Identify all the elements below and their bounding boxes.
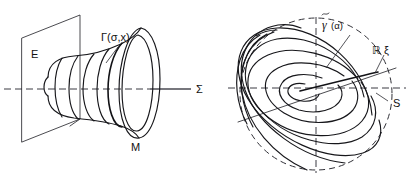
figure-container: E Γ(σ,x) M Σ [0,0,415,181]
spiral-label-group: γ (α) [322,13,343,32]
real-line-label: ℝ ξ [372,44,389,56]
spiral-arc-5 [245,38,375,144]
right-panel-svg: γ (α) ℝ ξ S [0,0,415,181]
spiral-label-arg: (α) [331,20,343,31]
real-line-leader [375,55,384,73]
spiral-arc-6 [238,28,381,156]
spiral-arc-1 [288,83,319,101]
spiral-label-gamma: γ [322,18,327,32]
sphere-label-S: S [393,97,400,109]
spiral-family [237,25,381,170]
sphere-leader-line [376,93,388,101]
tilde-accent-icon [322,13,329,15]
